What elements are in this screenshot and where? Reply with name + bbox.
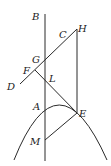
line-FE <box>35 70 77 113</box>
label-D: D <box>6 81 15 92</box>
line-ME <box>45 113 77 140</box>
label-L: L <box>48 73 56 84</box>
parabola-curve <box>14 105 107 160</box>
label-A: A <box>32 101 40 112</box>
label-F: F <box>22 65 31 76</box>
label-B: B <box>31 11 39 22</box>
label-H: H <box>77 23 87 34</box>
label-E: E <box>78 108 87 119</box>
label-M: M <box>29 136 41 147</box>
label-G: G <box>32 54 40 65</box>
diagram-canvas: B H C G F D L A E M <box>0 0 111 166</box>
label-C: C <box>59 29 67 40</box>
geometry-diagram: B H C G F D L A E M <box>0 0 111 166</box>
